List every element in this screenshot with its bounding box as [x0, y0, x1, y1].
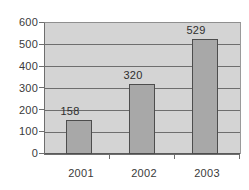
y-tick-label-500: 500 [0, 39, 38, 50]
plot-area [44, 22, 241, 154]
y-tick-label-0: 0 [0, 148, 38, 159]
y-tick-label-200: 200 [0, 105, 38, 116]
x-tick-mark-2 [174, 154, 175, 159]
x-tick-mark-1 [109, 154, 110, 159]
x-tick-label-2003: 2003 [182, 168, 232, 179]
x-axis-line [44, 154, 240, 155]
data-label-2001: 158 [48, 106, 92, 117]
x-tick-mark-3 [239, 154, 240, 159]
bar-2001[interactable] [66, 120, 92, 154]
x-tick-label-2001: 2001 [56, 168, 106, 179]
data-label-2003: 529 [174, 25, 218, 36]
y-tick-label-400: 400 [0, 61, 38, 72]
y-axis: 600 500 400 300 200 100 0 [0, 0, 38, 190]
x-tick-label-2002: 2002 [119, 168, 169, 179]
y-tick-label-100: 100 [0, 126, 38, 137]
y-tick-label-600: 600 [0, 17, 38, 28]
bar-2002[interactable] [129, 84, 155, 154]
bar-2003[interactable] [192, 39, 218, 154]
bar-chart: 600 500 400 300 200 100 0 158 320 529 20… [0, 0, 249, 190]
y-tick-label-300: 300 [0, 83, 38, 94]
data-label-2002: 320 [111, 70, 155, 81]
